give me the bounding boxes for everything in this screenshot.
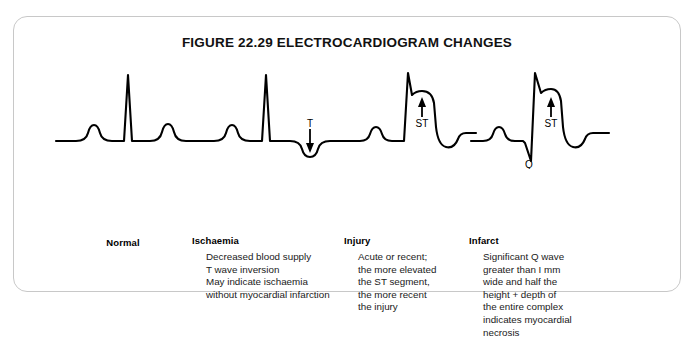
panel-line: the ST segment, [358,276,474,289]
annotation-label-st: ST [545,118,558,129]
panel-line: Acute or recent; [358,251,474,264]
panel-line: without myocardial infarction [206,289,357,302]
panel-line: the injury [358,301,474,314]
panel-line: Decreased blood supply [206,251,357,264]
panel-title-ischaemia: Ischaemia [192,235,357,246]
annotation-arrow-up-st [418,97,426,117]
annotation-label-q: Q [525,159,533,169]
panel-line: wide and half the [483,276,659,289]
panel-line: necrosis [483,327,659,339]
panel-line: T wave inversion [206,264,357,277]
panel-line: the more elevated [358,264,474,277]
panel-line: the more recent [358,289,474,302]
panel-lines-injury: Acute or recent; the more elevated the S… [358,251,474,314]
panel-line: the entire complex [483,301,659,314]
annotation-arrow-down-t [306,129,314,153]
figure-card: FIGURE 22.29 ELECTROCARDIOGRAM CHANGES N… [13,16,681,292]
ecg-trace-normal [54,69,204,159]
panel-line: height + depth of [483,289,659,302]
annotation-label-st: ST [416,118,429,129]
ecg-trace-infarct: ST Q [469,69,629,169]
ecg-trace-injury: ST [344,69,479,159]
panel-ischaemia-labels: Ischaemia Decreased blood supply T wave … [192,235,357,301]
ecg-trace-ischaemia: T [192,69,357,159]
figure-title: FIGURE 22.29 ELECTROCARDIOGRAM CHANGES [14,35,680,50]
panel-normal-labels: Normal [54,237,204,248]
panel-line: Significant Q wave [483,251,659,264]
panel-infarct: ST Q Infarct Significant Q wave greater … [469,69,659,339]
panel-title-normal: Normal [58,237,188,248]
panel-normal: Normal [54,69,204,248]
panel-injury-labels: Injury Acute or recent; the more elevate… [344,235,474,314]
panel-injury: ST Injury Acute or recent; the more elev… [344,69,474,314]
panel-line: greater than I mm [483,264,659,277]
panel-title-injury: Injury [344,235,474,246]
panel-line: indicates myocardial [483,314,659,327]
panel-lines-infarct: Significant Q wave greater than I mm wid… [483,251,659,339]
panel-ischaemia: T Ischaemia Decreased blood supply T wav… [192,69,357,301]
panel-lines-ischaemia: Decreased blood supply T wave inversion … [206,251,357,301]
annotation-arrow-up-st [547,97,555,117]
panel-infarct-labels: Infarct Significant Q wave greater than … [469,235,659,339]
panel-title-infarct: Infarct [469,235,659,246]
panel-line: May indicate ischaemia [206,276,357,289]
annotation-label-t: T [307,118,313,129]
